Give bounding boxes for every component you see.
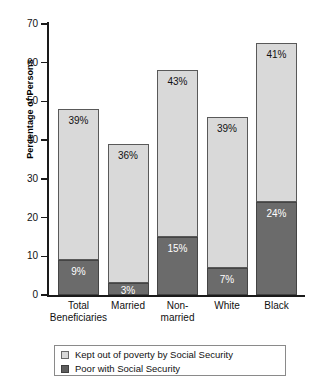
legend-label: Kept out of poverty by Social Security xyxy=(75,350,233,360)
bar-value-label: 7% xyxy=(220,274,234,285)
y-axis-title: Percentage of Persons xyxy=(25,29,35,189)
x-axis-line xyxy=(47,295,305,297)
bar-segment-kept-out-of-poverty: 41% xyxy=(256,43,297,202)
x-category-label-line: married xyxy=(148,312,207,324)
y-tick-mark xyxy=(41,139,48,141)
legend-label: Poor with Social Security xyxy=(75,364,180,374)
y-tick-mark xyxy=(41,23,48,25)
bar-segment-kept-out-of-poverty: 43% xyxy=(157,70,198,236)
bar-segment-poor-with-social-security: 3% xyxy=(108,283,149,295)
bar-married: 3%36% xyxy=(108,144,149,295)
x-category-label-line: Black xyxy=(247,300,306,312)
y-tick-mark xyxy=(41,101,48,103)
bar-segment-poor-with-social-security: 9% xyxy=(58,260,99,295)
bar-segment-poor-with-social-security: 24% xyxy=(256,202,297,295)
y-tick-label: 20 xyxy=(0,213,38,223)
bar-value-label: 9% xyxy=(71,266,85,277)
y-tick-label: 30 xyxy=(0,174,38,184)
bar-segment-poor-with-social-security: 7% xyxy=(207,268,248,295)
y-tick-mark xyxy=(41,256,48,258)
y-tick-label: 70 xyxy=(0,19,38,29)
bar-non-married: 15%43% xyxy=(157,70,198,295)
bar-value-label: 36% xyxy=(118,150,138,161)
bar-value-label: 15% xyxy=(167,243,187,254)
bar-segment-kept-out-of-poverty: 39% xyxy=(58,109,99,260)
bar-value-label: 41% xyxy=(266,49,286,60)
bar-segment-kept-out-of-poverty: 39% xyxy=(207,117,248,268)
y-tick-label: 10 xyxy=(0,251,38,261)
x-category-label-line: Beneficiaries xyxy=(49,312,108,324)
legend-item-poor-with-social-security: Poor with Social Security xyxy=(61,363,285,375)
y-tick-mark xyxy=(41,178,48,180)
legend-swatch-dark-icon xyxy=(61,365,69,373)
bar-chart: Percentage of Persons 010203040506070 9%… xyxy=(0,0,312,384)
legend-item-kept-out-of-poverty: Kept out of poverty by Social Security xyxy=(61,349,285,361)
y-tick-label: 40 xyxy=(0,135,38,145)
bar-value-label: 39% xyxy=(217,123,237,134)
chart-legend: Kept out of poverty by Social Security P… xyxy=(54,345,286,376)
bar-segment-kept-out-of-poverty: 36% xyxy=(108,144,149,283)
y-tick-label: 0 xyxy=(0,290,38,300)
bar-white: 7%39% xyxy=(207,117,248,295)
y-tick-mark xyxy=(41,294,48,296)
y-tick-label: 50 xyxy=(0,96,38,106)
bar-value-label: 24% xyxy=(266,208,286,219)
bar-value-label: 39% xyxy=(68,115,88,126)
y-tick-label: 60 xyxy=(0,58,38,68)
bar-segment-poor-with-social-security: 15% xyxy=(157,237,198,295)
bar-value-label: 43% xyxy=(167,76,187,87)
x-category-label: Black xyxy=(247,300,306,312)
clipped-scan-artifact xyxy=(0,0,312,10)
bar-black: 24%41% xyxy=(256,43,297,295)
bar-value-label: 3% xyxy=(121,285,135,296)
bar-total-beneficiaries: 9%39% xyxy=(58,109,99,295)
y-tick-mark xyxy=(41,217,48,219)
y-tick-mark xyxy=(41,62,48,64)
legend-swatch-light-icon xyxy=(61,351,69,359)
